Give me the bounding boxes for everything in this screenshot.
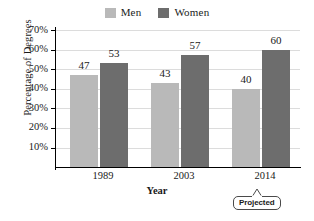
y-tick-mark-30: [51, 108, 56, 109]
x-tick-label-2003: 2003: [154, 170, 214, 181]
y-tick-label-40: 40%: [8, 83, 48, 93]
y-tick-mark-70: [51, 30, 56, 31]
y-tick-mark-50: [51, 69, 56, 70]
bar-men-1989: [70, 75, 98, 167]
bar-value-men-1989: 47: [64, 60, 104, 71]
x-axis-title: Year: [0, 185, 314, 196]
y-tick-mark-10: [51, 148, 56, 149]
y-tick-label-20: 20%: [8, 122, 48, 132]
chart-legend: Men Women: [0, 7, 314, 18]
bar-women-2003: [181, 55, 209, 167]
legend-label-women: Women: [174, 7, 209, 18]
x-axis-line: [55, 167, 301, 168]
y-tick-label-60: 60%: [8, 44, 48, 54]
bar-value-women-1989: 53: [94, 48, 134, 59]
x-tick-label-2014: 2014: [235, 170, 295, 181]
bar-value-men-2014: 40: [226, 74, 266, 85]
legend-label-men: Men: [121, 7, 142, 18]
bar-women-2014: [262, 50, 290, 167]
legend-swatch-men-icon: [105, 8, 116, 18]
y-tick-label-10: 10%: [8, 142, 48, 152]
bar-value-women-2003: 57: [175, 40, 215, 51]
bar-value-women-2014: 60: [256, 35, 296, 46]
callout-pointer-icon: [251, 189, 263, 197]
legend-swatch-women-icon: [158, 8, 169, 18]
legend-item-women: Women: [158, 7, 209, 18]
projected-label: Projected: [233, 196, 281, 210]
bar-men-2003: [151, 83, 179, 167]
bar-value-men-2003: 43: [145, 68, 185, 79]
projected-callout: Projected: [233, 196, 281, 210]
bar-women-1989: [100, 63, 128, 167]
plot-area: 47 53 43 57 40 60: [56, 30, 300, 167]
x-tick-label-1989: 1989: [73, 170, 133, 181]
legend-item-men: Men: [105, 7, 142, 18]
y-tick-label-30: 30%: [8, 103, 48, 113]
y-tick-label-50: 50%: [8, 64, 48, 74]
y-tick-mark-60: [51, 50, 56, 51]
bar-men-2014: [232, 89, 260, 167]
y-tick-mark-40: [51, 89, 56, 90]
y-tick-label-70: 70%: [8, 25, 48, 35]
gridline-70: [56, 30, 300, 31]
y-tick-mark-20: [51, 128, 56, 129]
bar-chart-figure: Men Women Percentage of Degrees 70% 60% …: [0, 0, 314, 221]
